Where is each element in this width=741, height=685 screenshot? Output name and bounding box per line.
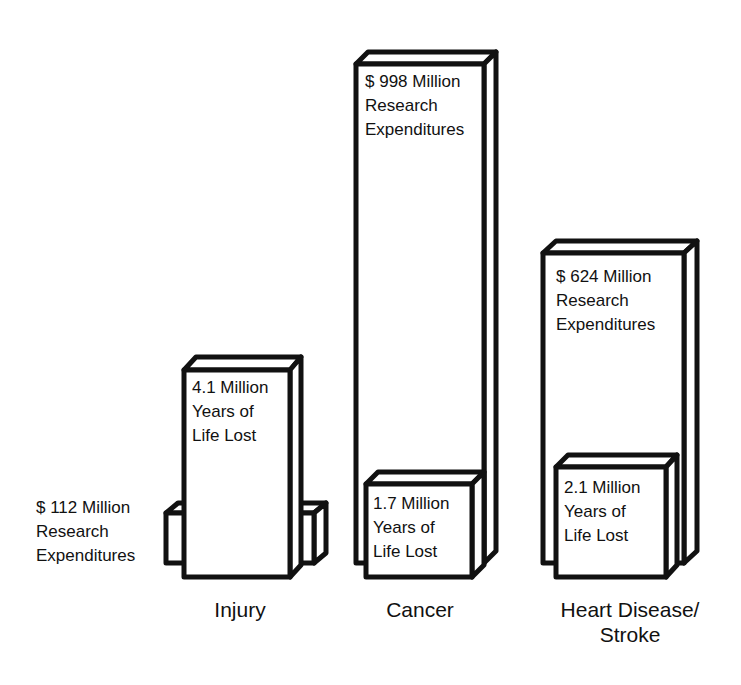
injury-yll-label: 4.1 Million Years of Life Lost bbox=[192, 376, 269, 448]
heart-yll-text-1: Years of bbox=[564, 500, 641, 524]
heart-exp-value: $ 624 Million bbox=[556, 265, 655, 289]
heart-yll-label: 2.1 Million Years of Life Lost bbox=[564, 476, 641, 548]
injury-yll-text-1: Years of bbox=[192, 400, 269, 424]
injury-expenditure-label: $ 112 Million Research Expenditures bbox=[36, 496, 135, 568]
injury-exp-value: $ 112 Million bbox=[36, 496, 135, 520]
cancer-exp-text-1: Research bbox=[365, 94, 464, 118]
category-label-heart-disease-stroke: Heart Disease/ Stroke bbox=[545, 597, 715, 647]
injury-yll-value: 4.1 Million bbox=[192, 376, 269, 400]
cancer-yll-text-2: Life Lost bbox=[373, 540, 450, 564]
injury-exp-text-1: Research bbox=[36, 520, 135, 544]
injury-yll-text-2: Life Lost bbox=[192, 424, 269, 448]
heart-exp-text-1: Research bbox=[556, 289, 655, 313]
cancer-yll-text-1: Years of bbox=[373, 516, 450, 540]
heart-exp-text-2: Expenditures bbox=[556, 313, 655, 337]
heart-yll-value: 2.1 Million bbox=[564, 476, 641, 500]
category-label-heart-line2: Stroke bbox=[545, 622, 715, 647]
category-label-cancer: Cancer bbox=[360, 597, 480, 622]
category-label-heart-line1: Heart Disease/ bbox=[545, 597, 715, 622]
heart-yll-text-2: Life Lost bbox=[564, 524, 641, 548]
cancer-yll-value: 1.7 Million bbox=[373, 492, 450, 516]
heart-expenditure-label: $ 624 Million Research Expenditures bbox=[556, 265, 655, 337]
injury-exp-text-2: Expenditures bbox=[36, 544, 135, 568]
cancer-exp-value: $ 998 Million bbox=[365, 70, 464, 94]
cancer-exp-text-2: Expenditures bbox=[365, 118, 464, 142]
category-label-injury: Injury bbox=[180, 597, 300, 622]
cancer-yll-label: 1.7 Million Years of Life Lost bbox=[373, 492, 450, 564]
cancer-expenditure-label: $ 998 Million Research Expenditures bbox=[365, 70, 464, 142]
